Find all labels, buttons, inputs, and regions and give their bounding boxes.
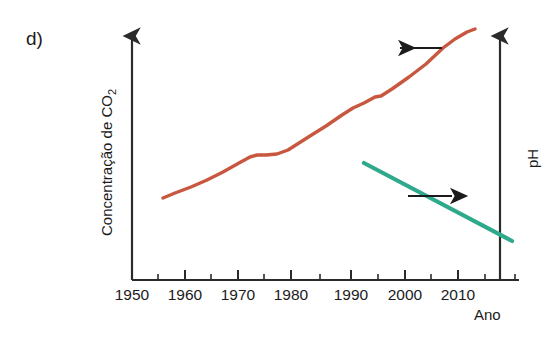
plot-area — [0, 0, 559, 340]
series-line-ph — [364, 163, 512, 241]
figure-panel-d: d) Concentração de CO2 pH Ano 1950 1960 … — [0, 0, 559, 340]
x-axis-major-ticks — [132, 270, 458, 280]
series-line-co2 — [163, 29, 475, 198]
